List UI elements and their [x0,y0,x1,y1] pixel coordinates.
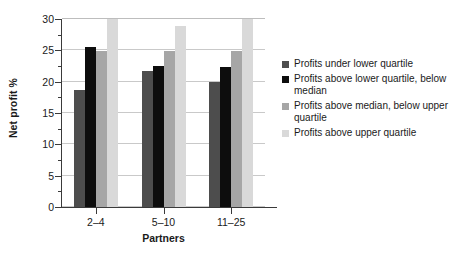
legend-entry: Profits under lower quartile [282,58,450,71]
bar [153,66,164,207]
bar [142,71,153,207]
y-axis-tick-label: 5 [14,170,54,182]
bar-chart-figure: Net profit % 051015202530 2–45–1011–25 P… [0,0,453,258]
bar-group [209,19,253,207]
x-axis-tick-label: 2–4 [61,216,131,228]
y-axis-tick-label: 20 [14,76,54,88]
bar [231,51,242,207]
y-axis-tick-label: 10 [14,138,54,150]
y-axis-tick-label: 15 [14,107,54,119]
bar-group [142,19,186,207]
bar [96,51,107,207]
y-axis-major-tick [55,176,62,177]
bar [220,67,231,207]
legend-entry: Profits above median, below upper quarti… [282,100,450,125]
x-axis-line [61,207,277,208]
y-axis-major-tick [55,50,62,51]
y-axis-tick-labels: 051015202530 [10,0,54,258]
bar [107,19,118,207]
x-axis-tick [96,208,97,214]
x-axis-tick [164,208,165,214]
legend-label: Profits above lower quartile, below medi… [294,73,450,98]
y-axis-major-tick [55,113,62,114]
x-axis-tick [231,208,232,214]
x-axis-tick-label: 11–25 [196,216,266,228]
x-axis-tick-label: 5–10 [129,216,199,228]
legend-swatch-icon [282,61,289,68]
bar [209,82,220,207]
bar [242,19,253,207]
legend-label: Profits above upper quartile [294,127,416,140]
bar [74,90,85,207]
y-axis-major-tick [55,19,62,20]
legend-swatch-icon [282,103,289,110]
legend-label: Profits above median, below upper quarti… [294,100,450,125]
bar-group [74,19,118,207]
chart-legend: Profits under lower quartileProfits abov… [282,58,450,141]
y-axis-tick-label: 30 [14,13,54,25]
y-axis-tick-label: 25 [14,44,54,56]
y-axis-tick-label: 0 [14,201,54,213]
plot-area [62,19,265,207]
bar [164,51,175,207]
y-axis-major-tick [55,144,62,145]
bar [85,47,96,207]
bars-layer [62,19,265,207]
bar [175,26,186,207]
x-axis-title: Partners [62,232,265,244]
legend-label: Profits under lower quartile [294,58,413,71]
legend-entry: Profits above lower quartile, below medi… [282,73,450,98]
legend-swatch-icon [282,130,289,137]
legend-entry: Profits above upper quartile [282,127,450,140]
y-axis-major-tick [55,207,62,208]
y-axis-major-tick [55,82,62,83]
legend-swatch-icon [282,76,289,83]
